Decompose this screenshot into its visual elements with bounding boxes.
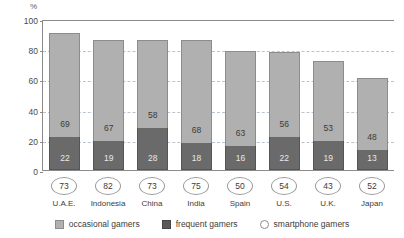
bar-column[interactable]: 6922 [43,21,87,170]
bar-segment-occasional[interactable]: 69 [49,33,80,137]
smartphone-gamers-circle: 82 [95,177,121,195]
smartphone-gamers-circle: 54 [271,177,297,195]
bar-value-occasional: 68 [192,125,201,135]
bar-segment-occasional[interactable]: 67 [93,40,124,141]
bar-value-occasional: 58 [148,110,157,120]
stacked-bar[interactable]: 6316 [225,51,256,170]
smartphone-gamers-circle: 75 [183,177,209,195]
bar-value-frequent: 18 [192,153,201,163]
legend-item-frequent[interactable]: frequent gamers [162,219,238,229]
bar-value-occasional: 53 [323,123,332,133]
y-axis-tick-80: 80 [29,46,38,56]
bar-column[interactable]: 6316 [219,21,263,170]
bar-value-occasional: 48 [367,132,376,142]
bar-value-occasional: 69 [60,119,69,129]
legend-label: frequent gamers [176,219,238,229]
bar-segment-occasional[interactable]: 58 [137,40,168,128]
bar-value-frequent: 16 [236,153,245,163]
square-swatch-icon [162,220,171,229]
stacked-bar[interactable]: 6922 [49,33,80,170]
category-label: U.A.E. [52,199,75,208]
bar-segment-occasional[interactable]: 68 [181,40,212,143]
stacked-bar[interactable]: 5828 [137,40,168,170]
category-label: U.K. [320,199,336,208]
bar-segment-frequent[interactable]: 18 [181,143,212,170]
stacked-bar[interactable]: 5319 [313,61,344,170]
bar-column[interactable]: 5319 [306,21,350,170]
category-label: Japan [361,199,383,208]
bar-value-frequent: 22 [60,153,69,163]
bar-segment-frequent[interactable]: 22 [269,137,300,170]
y-axis-tick-60: 60 [29,76,38,86]
bar-segment-frequent[interactable]: 19 [313,141,344,170]
stacked-bar[interactable]: 6818 [181,40,212,170]
bar-value-frequent: 28 [148,153,157,163]
y-axis-tick-20: 20 [29,137,38,147]
chart-legend: occasional gamersfrequent gamerssmartpho… [0,219,404,229]
circle-marker-icon [260,220,269,229]
category-label: India [187,199,204,208]
category-label: China [142,199,163,208]
stacked-bar[interactable]: 4813 [357,78,388,170]
bar-value-frequent: 22 [280,153,289,163]
axis-category-group: 73China [130,171,174,216]
bar-column[interactable]: 6818 [175,21,219,170]
stacked-bar[interactable]: 6719 [93,40,124,170]
bar-group: 69226719582868186316562253194813 [43,21,394,170]
legend-label: occasional gamers [69,219,140,229]
axis-category-group: 43U.K. [306,171,350,216]
bar-value-frequent: 19 [323,153,332,163]
y-axis-tick-40: 40 [29,107,38,117]
y-axis-tick-100: 100 [24,16,38,26]
bar-segment-occasional[interactable]: 56 [269,52,300,137]
legend-item-occasional[interactable]: occasional gamers [55,219,140,229]
bar-value-occasional: 56 [280,119,289,129]
bar-segment-frequent[interactable]: 28 [137,128,168,170]
axis-category-group: 82Indonesia [86,171,130,216]
smartphone-gamers-circle: 50 [227,177,253,195]
stacked-bar[interactable]: 5622 [269,52,300,170]
bar-segment-occasional[interactable]: 53 [313,61,344,141]
smartphone-gamers-circle: 73 [139,177,165,195]
smartphone-gamers-circle: 43 [315,177,341,195]
y-axis-unit-label: % [30,2,37,11]
y-axis-tick-0: 0 [33,167,38,177]
bar-column[interactable]: 4813 [350,21,394,170]
bar-segment-occasional[interactable]: 63 [225,51,256,146]
category-label: U.S. [276,199,292,208]
stacked-bar-chart: % 02040608010069226719582868186316562253… [0,0,404,238]
plot-area: 0204060801006922671958286818631656225319… [42,20,394,171]
bar-segment-frequent[interactable]: 13 [357,150,388,170]
legend-item-smartphone[interactable]: smartphone gamers [260,219,350,229]
bar-value-frequent: 19 [104,153,113,163]
bar-column[interactable]: 5828 [131,21,175,170]
bar-value-occasional: 63 [236,128,245,138]
axis-category-group: 75India [174,171,218,216]
category-label: Indonesia [91,199,126,208]
smartphone-gamers-circle: 52 [359,177,385,195]
category-label: Spain [230,199,250,208]
bar-value-occasional: 67 [104,123,113,133]
axis-category-group: 52Japan [350,171,394,216]
axis-category-group: 54U.S. [262,171,306,216]
axis-category-group: 73U.A.E. [42,171,86,216]
smartphone-gamers-circle: 73 [51,177,77,195]
bar-segment-frequent[interactable]: 19 [93,141,124,170]
bar-value-frequent: 13 [367,153,376,163]
bar-segment-frequent[interactable]: 22 [49,137,80,170]
bar-segment-frequent[interactable]: 16 [225,146,256,170]
square-swatch-icon [55,220,64,229]
category-axis-area: 73U.A.E.82Indonesia73China75India50Spain… [42,171,394,216]
bar-column[interactable]: 5622 [262,21,306,170]
axis-category-group: 50Spain [218,171,262,216]
legend-label: smartphone gamers [274,219,350,229]
bar-column[interactable]: 6719 [87,21,131,170]
bar-segment-occasional[interactable]: 48 [357,78,388,150]
